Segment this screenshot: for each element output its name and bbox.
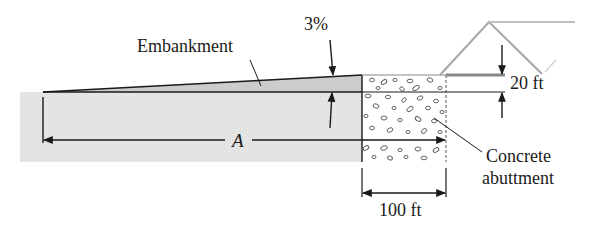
slope-label: 3%	[304, 14, 328, 34]
embankment-label: Embankment	[137, 36, 233, 56]
ground-region	[20, 92, 362, 162]
concrete-abutment	[362, 75, 446, 162]
abutment-label-line1: Concrete	[486, 146, 551, 166]
height-label: 20 ft	[510, 73, 544, 93]
slope-arrow-down	[330, 40, 333, 75]
embankment-diagram: 20 ft 3% Embankment A Concrete abuttment…	[0, 0, 594, 229]
abutment-label-line2: abuttment	[482, 168, 554, 188]
bridge-structure	[440, 22, 575, 75]
width-label: 100 ft	[379, 200, 422, 220]
distance-label: A	[230, 130, 244, 151]
